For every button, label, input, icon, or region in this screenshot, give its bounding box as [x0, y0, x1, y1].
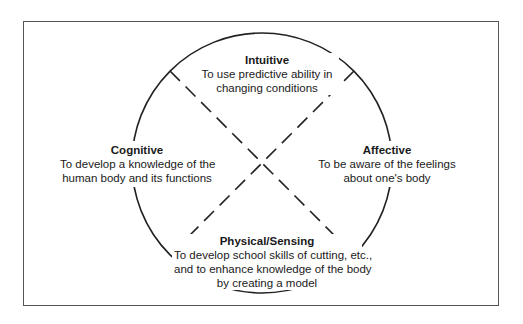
- quadrant-description-line: human body and its functions: [60, 171, 214, 185]
- quadrant-title: Affective: [316, 143, 458, 157]
- quadrant-description-line: about one's body: [316, 171, 458, 185]
- quadrant-description-line: To use predictive ability in: [197, 67, 337, 81]
- quadrant-intuitive: Intuitive To use predictive ability in c…: [195, 53, 339, 95]
- quadrant-affective: Affective To be aware of the feelings ab…: [316, 141, 458, 187]
- quadrant-title: Cognitive: [60, 143, 214, 157]
- quadrant-cognitive: Cognitive To develop a knowledge of the …: [60, 141, 214, 187]
- quadrant-description-line: To develop a knowledge of the: [60, 157, 214, 171]
- quadrant-title: Physical/Sensing: [174, 234, 360, 248]
- quadrant-description-line: To develop school skills of cutting, etc…: [174, 248, 360, 262]
- quadrant-description-line: changing conditions: [197, 81, 337, 95]
- quadrant-description-line: and to enhance knowledge of the body: [174, 262, 360, 276]
- quadrant-title: Intuitive: [197, 53, 337, 67]
- quadrant-description-line: To be aware of the feelings: [316, 157, 458, 171]
- quadrant-physical-sensing: Physical/Sensing To develop school skill…: [172, 234, 362, 290]
- quadrant-description-line: by creating a model: [174, 276, 360, 290]
